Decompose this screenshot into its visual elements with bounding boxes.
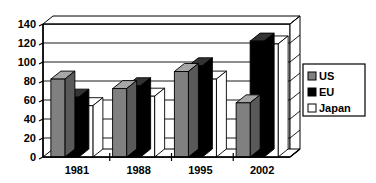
- legend: USEUJapan: [303, 64, 365, 116]
- legend-swatch: [308, 104, 316, 112]
- bar-front-face: [236, 103, 250, 157]
- bar-side-face: [188, 64, 198, 158]
- bar: [113, 81, 137, 157]
- bar-side-face: [93, 98, 103, 157]
- y-tick-label: 100: [18, 56, 36, 68]
- y-tick-label: 80: [24, 75, 36, 87]
- legend-swatch: [308, 88, 316, 96]
- right-wall: [290, 16, 300, 157]
- legend-label: Japan: [319, 102, 351, 114]
- bar-side-face: [127, 81, 137, 157]
- x-tick-label: 2002: [250, 164, 274, 176]
- bar-side-face: [202, 58, 212, 157]
- y-tick-label: 120: [18, 37, 36, 49]
- bar: [51, 71, 75, 157]
- top-wall: [43, 16, 300, 24]
- x-tick-label: 1981: [65, 164, 89, 176]
- bar-side-face: [278, 36, 288, 157]
- y-tick-mark: [39, 157, 43, 159]
- chart-canvas: 020406080100120140 1981198819952002 USEU…: [0, 0, 376, 183]
- y-axis: 020406080100120140: [18, 18, 43, 163]
- bar: [174, 64, 198, 158]
- bar-chart: 020406080100120140 1981198819952002 USEU…: [0, 0, 376, 183]
- bar-side-face: [65, 71, 75, 157]
- legend-label: EU: [319, 86, 334, 98]
- legend-label: US: [319, 70, 334, 82]
- bar: [236, 95, 260, 157]
- x-tick-label: 1995: [188, 164, 212, 176]
- bar-side-face: [250, 95, 260, 157]
- bar-front-face: [113, 89, 127, 157]
- x-tick-label: 1988: [126, 164, 150, 176]
- y-tick-label: 0: [30, 151, 36, 163]
- y-tick-label: 60: [24, 94, 36, 106]
- bar-front-face: [174, 72, 188, 158]
- bar-side-face: [79, 89, 89, 157]
- bar-front-face: [51, 79, 65, 157]
- bar-side-face: [216, 71, 226, 157]
- bar-side-face: [141, 78, 151, 157]
- legend-swatch: [308, 72, 316, 80]
- y-tick-label: 140: [18, 18, 36, 30]
- bar-side-face: [264, 33, 274, 157]
- y-tick-label: 20: [24, 132, 36, 144]
- bar-side-face: [155, 88, 165, 157]
- y-tick-label: 40: [24, 113, 36, 125]
